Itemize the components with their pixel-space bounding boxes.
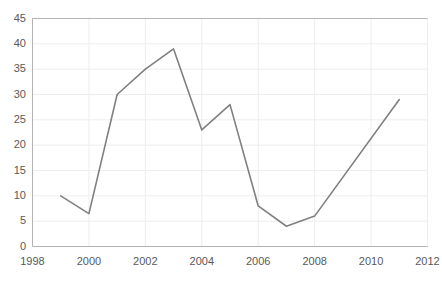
y-tick-label: 0 bbox=[4, 241, 26, 252]
x-tick-label: 2002 bbox=[125, 256, 165, 267]
plot-area bbox=[0, 0, 442, 284]
y-tick-label: 35 bbox=[4, 63, 26, 74]
y-tick-label: 10 bbox=[4, 190, 26, 201]
x-tick-label: 2006 bbox=[238, 256, 278, 267]
y-tick-label: 40 bbox=[4, 38, 26, 49]
x-tick-label: 1998 bbox=[13, 256, 53, 267]
y-tick-label: 45 bbox=[4, 13, 26, 24]
y-tick-label: 20 bbox=[4, 139, 26, 150]
horizontal-gridlines bbox=[33, 19, 428, 222]
x-tick-label: 2000 bbox=[69, 256, 109, 267]
vertical-gridlines bbox=[89, 19, 428, 247]
x-tick-label: 2008 bbox=[295, 256, 335, 267]
y-tick-label: 25 bbox=[4, 114, 26, 125]
series-line-1 bbox=[61, 49, 400, 226]
line-chart: 051015202530354045 199820002002200420062… bbox=[0, 0, 442, 284]
y-tick-label: 30 bbox=[4, 89, 26, 100]
y-tick-label: 5 bbox=[4, 215, 26, 226]
data-series-group bbox=[61, 49, 400, 226]
x-tick-label: 2010 bbox=[351, 256, 391, 267]
x-tick-label: 2012 bbox=[408, 256, 442, 267]
x-tick-label: 2004 bbox=[182, 256, 222, 267]
axis-lines bbox=[33, 19, 428, 247]
y-tick-label: 15 bbox=[4, 165, 26, 176]
